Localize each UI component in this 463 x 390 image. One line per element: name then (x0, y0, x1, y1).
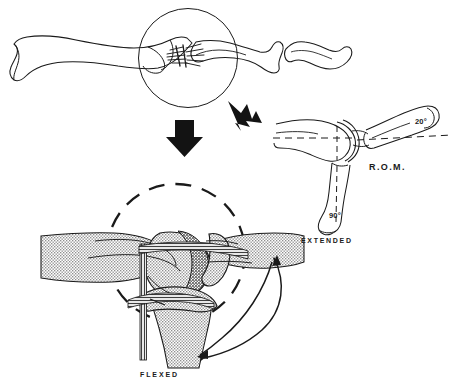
distal-phalanx-shaft-line (291, 51, 332, 60)
anatomical-figure: 20° 90° R.O.M. EXTENDED FLEXED (0, 0, 463, 390)
arrow-diagonal-icon (228, 101, 262, 131)
rom-reference-axes (273, 126, 452, 222)
angle-label-extension: 20° (415, 117, 427, 126)
flexed-caption: FLEXED (140, 371, 179, 378)
rom-flexed-bone-outline (318, 163, 350, 235)
panel-top-suture-repair (10, 9, 352, 108)
middle-phalanx-shaft-line (196, 50, 246, 55)
rom-caption: R.O.M. (369, 162, 406, 172)
rom-flexed-bone-90 (318, 163, 350, 235)
figure-canvas (0, 0, 463, 390)
proximal-phalanx-outline (10, 36, 192, 81)
rom-proximal-bone-outline (274, 120, 350, 162)
panel-flexed-cross-section (41, 184, 304, 368)
proximal-phalanx-base-notch (14, 44, 19, 80)
rom-extended-bone-base (364, 132, 366, 146)
rom-extended-bone-20 (364, 106, 439, 148)
angle-label-flexion: 90° (329, 211, 341, 220)
rom-flexed-bone-top (332, 163, 348, 166)
rom-proximal-bone-line (276, 132, 318, 134)
proximal-phalanx-bone (10, 36, 192, 81)
extended-caption: EXTENDED (301, 237, 353, 244)
condyle-contour (143, 47, 165, 73)
condyle-contour-2 (161, 40, 173, 70)
arrow-down-icon (166, 120, 203, 157)
rom-proximal-bone (274, 120, 350, 162)
transition-arrows (166, 101, 262, 157)
distal-phalanx-bone (285, 42, 352, 69)
distal-phalanx-outline (285, 42, 352, 69)
